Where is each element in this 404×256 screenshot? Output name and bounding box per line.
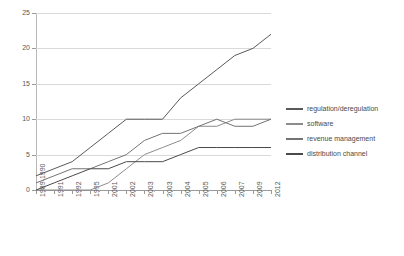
series-line <box>36 119 271 190</box>
legend-item[interactable]: distribution channel <box>286 146 404 161</box>
series-line <box>36 34 271 176</box>
legend-swatch <box>286 123 303 125</box>
legend-item[interactable]: regulation/deregulation <box>286 101 404 116</box>
legend-swatch <box>286 153 303 155</box>
line-chart: 0510152025 1989-199019911992199520012002… <box>0 0 404 256</box>
legend-label: software <box>307 120 333 128</box>
legend-item[interactable]: revenue management <box>286 131 404 146</box>
legend-label: distribution channel <box>307 150 367 158</box>
legend-swatch <box>286 138 303 140</box>
legend-item[interactable]: software <box>286 116 404 131</box>
chart-legend: regulation/deregulationsoftwarerevenue m… <box>286 101 404 161</box>
legend-label: regulation/deregulation <box>307 105 378 113</box>
legend-swatch <box>286 108 303 110</box>
legend-label: revenue management <box>307 135 375 143</box>
